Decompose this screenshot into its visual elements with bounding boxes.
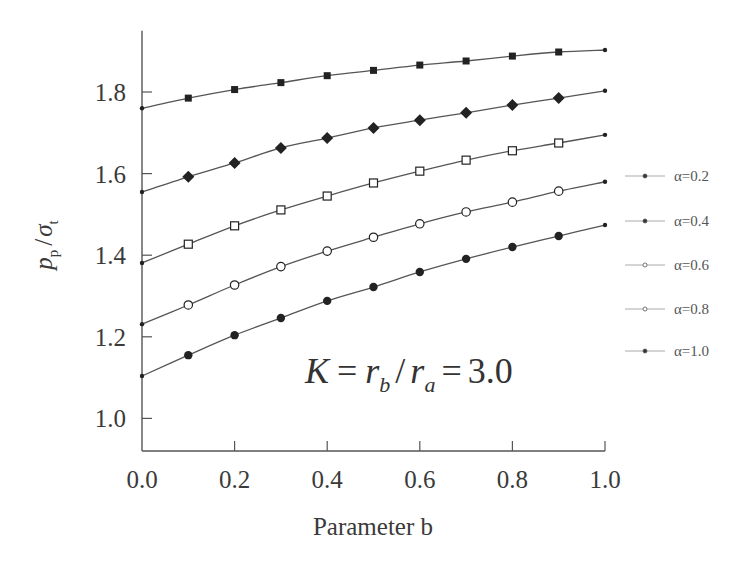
filled-diamond-marker bbox=[553, 92, 565, 104]
open-square-marker bbox=[277, 206, 285, 214]
y-tick-label: 1.4 bbox=[95, 242, 127, 269]
legend-item: α=1.0 bbox=[625, 343, 709, 359]
annot-eq2: = bbox=[441, 351, 461, 391]
open-circle-marker bbox=[369, 233, 377, 241]
open-square-marker bbox=[323, 192, 331, 200]
filled-circle-marker bbox=[277, 314, 285, 322]
open-square-marker bbox=[462, 156, 470, 164]
filled-circle-marker bbox=[416, 268, 424, 276]
endpoint-marker bbox=[603, 180, 607, 184]
svg-text:pp/σt: pp/σt bbox=[30, 219, 61, 271]
annot-eq1: = bbox=[337, 351, 357, 391]
open-circle-marker bbox=[555, 187, 563, 195]
annot-slash: / bbox=[395, 351, 405, 391]
legend-label: α=1.0 bbox=[674, 343, 709, 359]
legend-item: α=0.8 bbox=[625, 301, 709, 317]
open-circle-marker bbox=[508, 198, 516, 206]
endpoint-marker bbox=[603, 89, 607, 93]
y-tick-label: 1.8 bbox=[95, 79, 126, 106]
filled-square-marker bbox=[231, 86, 238, 93]
legend-label: α=0.6 bbox=[674, 257, 710, 273]
annot-sub-a: a bbox=[424, 372, 435, 397]
series-line bbox=[142, 182, 605, 324]
open-square-marker bbox=[184, 240, 192, 248]
legend-item: α=0.2 bbox=[625, 168, 709, 184]
legend-marker bbox=[643, 219, 647, 223]
open-circle-marker bbox=[184, 301, 192, 309]
legend-marker bbox=[643, 307, 647, 311]
x-tick-label: 0.4 bbox=[312, 466, 344, 493]
open-square-marker bbox=[555, 139, 563, 147]
filled-circle-marker bbox=[230, 331, 238, 339]
filled-circle-marker bbox=[184, 351, 192, 359]
filled-circle-marker bbox=[555, 232, 563, 240]
endpoint-marker bbox=[603, 223, 607, 227]
x-tick-label: 1.0 bbox=[589, 466, 620, 493]
filled-circle-marker bbox=[462, 255, 470, 263]
filled-square-marker bbox=[416, 62, 423, 69]
series-layer bbox=[140, 48, 607, 378]
endpoint-marker bbox=[603, 133, 607, 137]
y-tick-label: 1.2 bbox=[95, 324, 126, 351]
endpoint-marker bbox=[140, 190, 144, 194]
filled-square-marker bbox=[277, 79, 284, 86]
filled-square-marker bbox=[463, 57, 470, 64]
filled-diamond-marker bbox=[414, 114, 426, 126]
open-circle-marker bbox=[323, 247, 331, 255]
filled-diamond-marker bbox=[506, 99, 518, 111]
filled-diamond-marker bbox=[368, 122, 380, 134]
svg-text:K=rb/ra=3.0: K=rb/ra=3.0 bbox=[304, 351, 513, 397]
legend-label: α=0.8 bbox=[674, 301, 709, 317]
x-axis-title: Parameter b bbox=[313, 513, 433, 540]
open-circle-marker bbox=[277, 262, 285, 270]
y-axis-title: pp/σt bbox=[30, 219, 61, 271]
filled-square-marker bbox=[324, 72, 331, 79]
open-square-marker bbox=[231, 222, 239, 230]
annot-sub-b: b bbox=[379, 372, 390, 397]
filled-diamond-marker bbox=[275, 142, 287, 154]
open-square-marker bbox=[508, 147, 516, 155]
y-title-slash: / bbox=[30, 239, 57, 246]
legend-label: α=0.2 bbox=[674, 168, 709, 184]
annot-r1: r bbox=[365, 351, 380, 391]
open-circle-marker bbox=[416, 220, 424, 228]
annot-k: K bbox=[304, 351, 331, 391]
open-circle-marker bbox=[462, 208, 470, 216]
filled-diamond-marker bbox=[182, 171, 194, 183]
filled-square-marker bbox=[370, 67, 377, 74]
filled-circle-marker bbox=[369, 283, 377, 291]
series-α=0.4 bbox=[140, 89, 607, 195]
x-tick-label: 0.6 bbox=[404, 466, 435, 493]
legend-item: α=0.6 bbox=[625, 257, 710, 273]
endpoint-marker bbox=[140, 374, 144, 378]
open-circle-marker bbox=[230, 281, 238, 289]
filled-square-marker bbox=[185, 95, 192, 102]
series-α=0.8 bbox=[140, 180, 607, 327]
x-tick-label: 0.8 bbox=[497, 466, 528, 493]
series-α=0.6 bbox=[140, 133, 607, 266]
filled-diamond-marker bbox=[460, 107, 472, 119]
open-square-marker bbox=[370, 179, 378, 187]
series-line bbox=[142, 50, 605, 108]
legend-label: α=0.4 bbox=[674, 213, 710, 229]
x-tick-label: 0.0 bbox=[126, 466, 157, 493]
y-tick-label: 1.0 bbox=[95, 405, 126, 432]
annot-value: 3.0 bbox=[468, 351, 513, 391]
annot-r2: r bbox=[410, 351, 425, 391]
filled-diamond-marker bbox=[321, 132, 333, 144]
y-tick-label: 1.6 bbox=[95, 161, 126, 188]
open-square-marker bbox=[416, 167, 424, 175]
endpoint-marker bbox=[140, 322, 144, 326]
filled-square-marker bbox=[509, 53, 516, 60]
filled-circle-marker bbox=[323, 297, 331, 305]
filled-diamond-marker bbox=[229, 157, 241, 169]
x-tick-label: 0.2 bbox=[219, 466, 250, 493]
legend-marker bbox=[643, 174, 647, 178]
y-title-sub-t: t bbox=[45, 219, 61, 224]
legend-marker bbox=[643, 349, 647, 353]
legend-marker bbox=[643, 263, 647, 267]
filled-circle-marker bbox=[508, 243, 516, 251]
y-title-p: p bbox=[30, 257, 57, 272]
k-annotation: K=rb/ra=3.0 bbox=[304, 351, 513, 397]
endpoint-marker bbox=[140, 106, 144, 110]
